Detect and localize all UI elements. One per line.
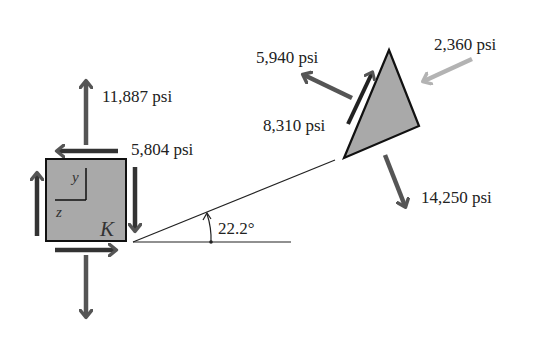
incline-tensile-arrow — [385, 155, 405, 206]
angle-arrowhead-icon — [203, 213, 211, 220]
incline-shear-label: 8,310 psi — [263, 116, 326, 135]
incline-compressive-label: 2,360 psi — [434, 35, 497, 54]
axis-z-label: z — [55, 204, 62, 220]
stress-transformation-diagram: y z K 11,887 psi 5,804 psi 22.2° 5,940 p… — [0, 0, 538, 350]
shear-stress-label: 5,804 psi — [131, 140, 194, 159]
normal-stress-label: 11,887 psi — [102, 87, 172, 106]
axis-y-label: y — [70, 169, 79, 185]
incline-compressive-arrow — [424, 59, 472, 81]
wedge-element: 5,940 psi 8,310 psi 2,360 psi 14,250 psi — [256, 35, 497, 207]
angle-construction: 22.2° — [133, 160, 335, 244]
element-label: K — [99, 217, 115, 241]
incline-tensile-label: 14,250 psi — [421, 188, 492, 207]
stress-element-k: y z K 11,887 psi 5,804 psi — [37, 82, 194, 316]
angle-label: 22.2° — [218, 219, 255, 238]
incline-normal-arrow — [304, 75, 352, 98]
incline-normal-label: 5,940 psi — [256, 48, 319, 67]
